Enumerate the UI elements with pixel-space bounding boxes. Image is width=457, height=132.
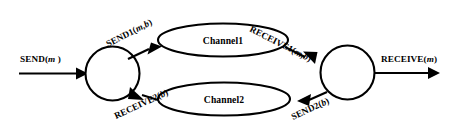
send1-edge-label: SEND1(m,b) xyxy=(104,17,153,49)
channel2-node: Channel2 xyxy=(158,83,290,116)
receive-edge: RECEIVE(m) xyxy=(375,54,440,79)
receive-arrowhead-icon xyxy=(428,67,440,79)
receive-edge-label: RECEIVE(m) xyxy=(381,54,437,64)
protocol-channel-diagram: SEND(m ) SEND1(m,b) Channel1 RECEIVE1(m,… xyxy=(0,0,457,132)
channel2-label: Channel2 xyxy=(204,94,244,105)
send-edge: SEND(m ) xyxy=(19,54,88,80)
send2-edge: SEND2(b) xyxy=(290,92,331,122)
channel1-label: Channel1 xyxy=(203,35,243,46)
send-edge-label: SEND(m ) xyxy=(20,54,61,64)
receiver-node xyxy=(321,46,375,100)
diagram-canvas: SEND(m ) SEND1(m,b) Channel1 RECEIVE1(m,… xyxy=(0,0,457,132)
